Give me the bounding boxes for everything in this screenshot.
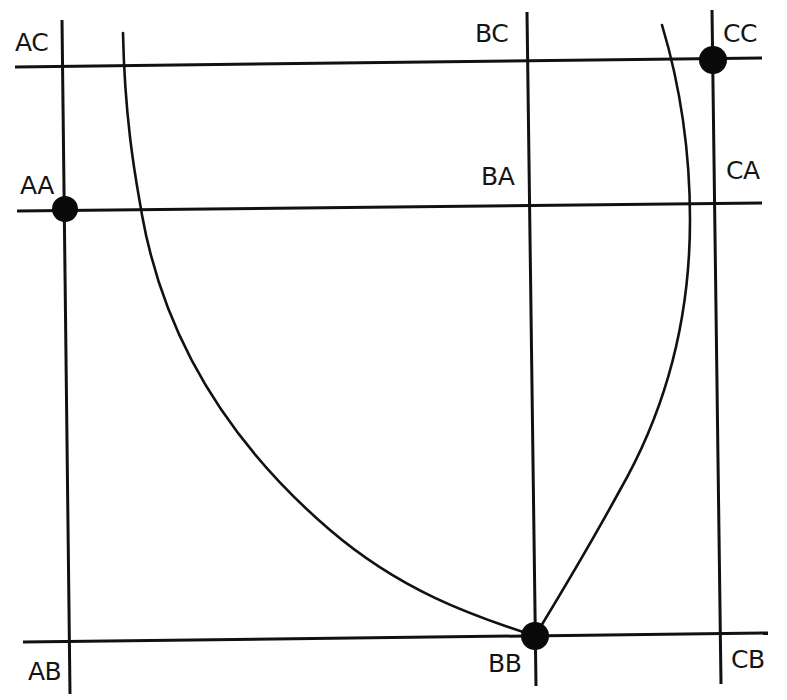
label-ca: CA — [726, 156, 760, 185]
label-bb: BB — [488, 649, 521, 678]
label-bc: BC — [475, 19, 508, 48]
column-line-c — [712, 10, 721, 684]
node-cc-dot — [699, 46, 727, 74]
row-line-c — [15, 58, 762, 67]
grid-diagram: AC AA AB BC BA BB CC CA CB — [0, 0, 787, 700]
node-bb-dot — [521, 622, 549, 650]
label-cc: CC — [723, 19, 757, 48]
label-cb: CB — [731, 645, 765, 674]
column-line-a — [62, 20, 70, 694]
left-curve — [123, 33, 535, 636]
right-curve — [535, 25, 690, 636]
column-line-b — [527, 12, 536, 686]
label-ba: BA — [481, 162, 515, 191]
row-line-b — [23, 633, 768, 642]
row-line-a — [17, 203, 762, 211]
label-ac: AC — [15, 28, 48, 57]
label-aa: AA — [20, 171, 54, 200]
node-aa-dot — [52, 196, 78, 222]
label-ab: AB — [28, 657, 61, 686]
